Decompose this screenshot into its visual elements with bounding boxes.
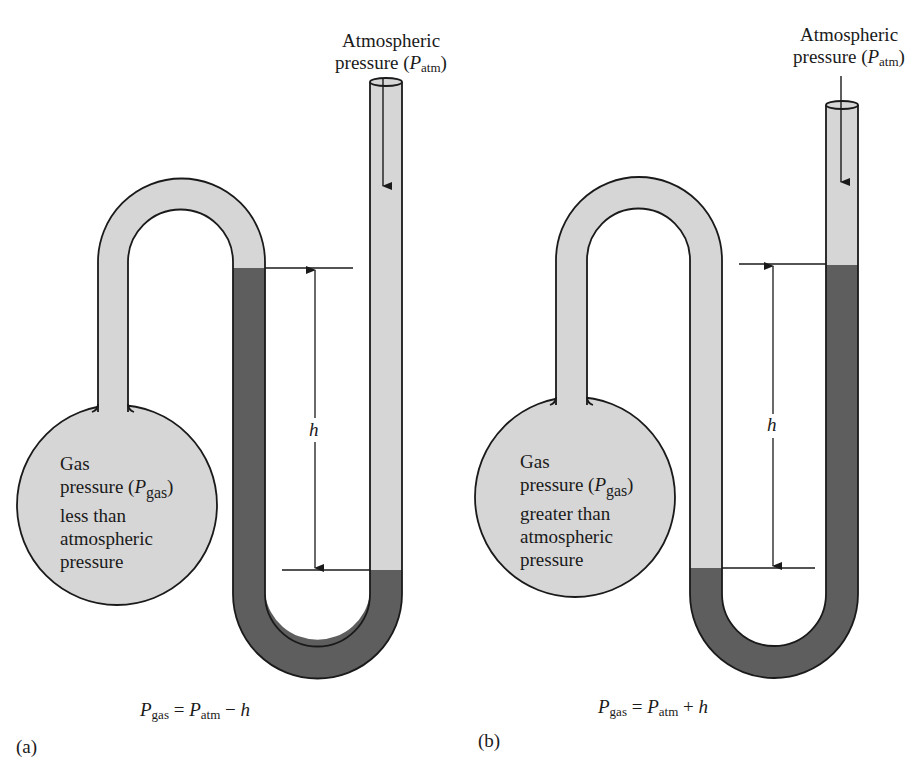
atm-subscript: atm <box>421 60 441 75</box>
bulb-line1: Gas <box>60 452 173 475</box>
bulb-line2: pressure (Pgas) <box>520 473 633 502</box>
manometer-diagram <box>0 0 919 772</box>
bulb-line2-post: ) <box>167 476 173 497</box>
bulb-line4: atmospheric <box>60 527 173 550</box>
eq-var: h <box>699 696 709 717</box>
eq-operator: + <box>678 696 698 717</box>
bulb-label-a: Gas pressure (Pgas) less than atmospheri… <box>60 452 173 573</box>
p-symbol: P <box>134 476 146 497</box>
atm-label-post: ) <box>899 46 905 67</box>
panel-b-apparatus <box>475 76 858 678</box>
p-symbol: P <box>594 474 606 495</box>
eq-lhs-symbol: P <box>598 696 610 717</box>
eq-rhs-sub: atm <box>201 707 221 722</box>
eq-equals: = <box>627 696 647 717</box>
p-symbol: P <box>409 52 421 73</box>
bulb-line2-pre: pressure ( <box>520 474 594 495</box>
atm-label-post: ) <box>441 52 447 73</box>
eq-lhs-symbol: P <box>140 699 152 720</box>
atm-label-line1: Atmospheric <box>326 30 456 52</box>
bulb-line5: pressure <box>520 548 633 571</box>
bulb-label-b: Gas pressure (Pgas) greater than atmosph… <box>520 450 633 571</box>
bulb-line1: Gas <box>520 450 633 473</box>
eq-lhs-sub: gas <box>610 704 627 719</box>
open-tube-air-a <box>370 82 402 570</box>
atm-label-line2: pressure (Patm) <box>326 52 456 74</box>
bulb-line2-pre: pressure ( <box>60 476 134 497</box>
eq-rhs-sub: atm <box>659 704 679 719</box>
eq-equals: = <box>169 699 189 720</box>
bulb-line2-post: ) <box>627 474 633 495</box>
eq-rhs-symbol: P <box>189 699 201 720</box>
atm-subscript: atm <box>879 54 899 69</box>
eq-var: h <box>241 699 251 720</box>
eq-rhs-symbol: P <box>647 696 659 717</box>
height-label-b: h <box>767 414 777 436</box>
atm-pressure-label-b: Atmospheric pressure (Patm) <box>782 24 916 68</box>
bulb-line3: greater than <box>520 502 633 525</box>
panel-label-b: (b) <box>478 730 500 752</box>
gas-subscript: gas <box>146 484 167 501</box>
atm-label-pre: pressure ( <box>793 46 867 67</box>
equation-b: Pgas = Patm + h <box>598 696 708 718</box>
open-tube-air-b <box>826 105 858 265</box>
equation-a: Pgas = Patm − h <box>140 699 250 721</box>
bulb-line5: pressure <box>60 550 173 573</box>
panel-label-a: (a) <box>16 736 37 758</box>
bulb-line4: atmospheric <box>520 525 633 548</box>
atm-label-pre: pressure ( <box>335 52 409 73</box>
panel-a-apparatus <box>17 78 402 679</box>
bulb-line3: less than <box>60 504 173 527</box>
atm-label-line1: Atmospheric <box>782 24 916 46</box>
p-symbol: P <box>867 46 879 67</box>
gas-subscript: gas <box>606 482 627 499</box>
eq-lhs-sub: gas <box>152 707 169 722</box>
height-label-a: h <box>309 419 319 441</box>
atm-label-line2: pressure (Patm) <box>782 46 916 68</box>
bulb-line2: pressure (Pgas) <box>60 475 173 504</box>
eq-operator: − <box>220 699 240 720</box>
atm-pressure-label-a: Atmospheric pressure (Patm) <box>326 30 456 74</box>
